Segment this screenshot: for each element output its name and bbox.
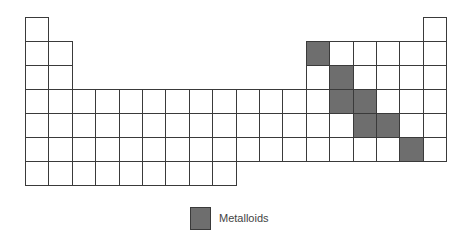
element-cell bbox=[353, 137, 377, 162]
element-cell bbox=[212, 89, 237, 114]
element-cell bbox=[306, 89, 330, 114]
element-cell bbox=[119, 161, 143, 186]
element-cell bbox=[259, 137, 283, 162]
element-cell bbox=[189, 161, 213, 186]
element-cell bbox=[236, 89, 260, 114]
element-cell bbox=[353, 65, 377, 90]
element-cell bbox=[142, 137, 166, 162]
element-cell bbox=[306, 65, 330, 90]
element-cell bbox=[95, 89, 120, 114]
element-cell bbox=[48, 89, 73, 114]
element-cell bbox=[399, 65, 424, 90]
element-cell bbox=[329, 137, 354, 162]
element-cell bbox=[399, 113, 424, 138]
element-cell bbox=[329, 41, 354, 66]
metalloid-cell bbox=[329, 89, 354, 114]
element-cell bbox=[48, 65, 73, 90]
element-cell bbox=[142, 89, 166, 114]
element-cell bbox=[282, 89, 307, 114]
element-cell bbox=[25, 41, 49, 66]
element-cell bbox=[306, 137, 330, 162]
metalloid-cell bbox=[376, 113, 400, 138]
element-cell bbox=[259, 113, 283, 138]
element-cell bbox=[25, 113, 49, 138]
element-cell bbox=[423, 113, 447, 138]
element-cell bbox=[95, 161, 120, 186]
element-cell bbox=[329, 113, 354, 138]
element-cell bbox=[72, 113, 96, 138]
element-cell bbox=[72, 89, 96, 114]
element-cell bbox=[236, 137, 260, 162]
element-cell bbox=[423, 17, 447, 42]
metalloid-cell bbox=[399, 137, 424, 162]
element-cell bbox=[212, 113, 237, 138]
element-cell bbox=[48, 137, 73, 162]
element-cell bbox=[165, 89, 190, 114]
element-cell bbox=[165, 137, 190, 162]
metalloid-cell bbox=[353, 113, 377, 138]
element-cell bbox=[48, 161, 73, 186]
element-cell bbox=[119, 137, 143, 162]
element-cell bbox=[282, 137, 307, 162]
element-cell bbox=[376, 137, 400, 162]
element-cell bbox=[25, 89, 49, 114]
periodic-table-grid bbox=[0, 0, 469, 200]
element-cell bbox=[423, 89, 447, 114]
element-cell bbox=[48, 41, 73, 66]
element-cell bbox=[25, 161, 49, 186]
element-cell bbox=[142, 161, 166, 186]
element-cell bbox=[95, 113, 120, 138]
element-cell bbox=[119, 113, 143, 138]
element-cell bbox=[376, 65, 400, 90]
element-cell bbox=[72, 161, 96, 186]
element-cell bbox=[423, 65, 447, 90]
element-cell bbox=[353, 41, 377, 66]
element-cell bbox=[212, 161, 237, 186]
element-cell bbox=[142, 113, 166, 138]
element-cell bbox=[25, 65, 49, 90]
element-cell bbox=[259, 89, 283, 114]
element-cell bbox=[189, 137, 213, 162]
element-cell bbox=[236, 113, 260, 138]
element-cell bbox=[423, 137, 447, 162]
element-cell bbox=[376, 41, 400, 66]
element-cell bbox=[48, 113, 73, 138]
element-cell bbox=[189, 113, 213, 138]
legend-swatch-metalloids bbox=[190, 207, 211, 230]
element-cell bbox=[25, 137, 49, 162]
element-cell bbox=[189, 89, 213, 114]
legend: Metalloids bbox=[190, 206, 269, 230]
element-cell bbox=[212, 137, 237, 162]
legend-label: Metalloids bbox=[219, 212, 269, 224]
element-cell bbox=[399, 41, 424, 66]
element-cell bbox=[25, 17, 49, 42]
element-cell bbox=[165, 161, 190, 186]
element-cell bbox=[423, 41, 447, 66]
element-cell bbox=[165, 113, 190, 138]
element-cell bbox=[95, 137, 120, 162]
element-cell bbox=[376, 89, 400, 114]
element-cell bbox=[72, 137, 96, 162]
element-cell bbox=[282, 113, 307, 138]
metalloid-cell bbox=[306, 41, 330, 66]
metalloid-cell bbox=[353, 89, 377, 114]
metalloid-cell bbox=[329, 65, 354, 90]
element-cell bbox=[399, 89, 424, 114]
element-cell bbox=[306, 113, 330, 138]
element-cell bbox=[119, 89, 143, 114]
